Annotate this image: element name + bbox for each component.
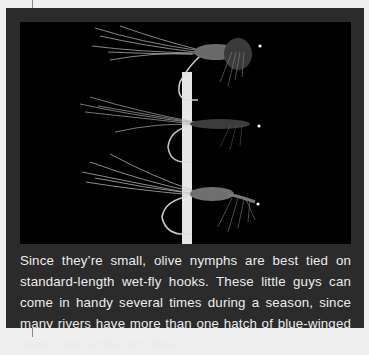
crop-mark-top: [32, 0, 33, 8]
olive-nymph-flies-image: [20, 22, 351, 244]
figure-caption: Since they’re small, olive nymphs are be…: [20, 250, 351, 355]
bottom-fly-body: [190, 187, 234, 201]
figure-frame: Since they’re small, olive nymphs are be…: [6, 8, 364, 328]
middle-fly-body: [190, 119, 250, 129]
fly-photo: [20, 22, 351, 244]
